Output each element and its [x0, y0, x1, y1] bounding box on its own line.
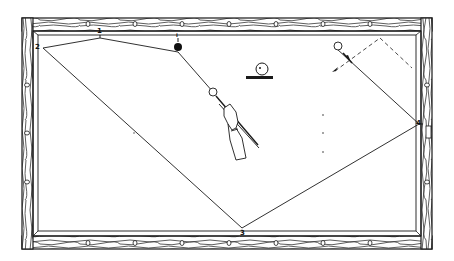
- rail-point-label-3: 3: [240, 230, 245, 237]
- rail-point-label-1: 1: [97, 28, 102, 35]
- table-drawing: [0, 0, 454, 261]
- object-ball-black: [174, 43, 182, 51]
- target-ball-upper-right: [334, 42, 342, 50]
- rail-point-label-2: 2: [35, 44, 40, 51]
- cue-ball: [209, 88, 217, 96]
- rail-point-label-4: 4: [416, 120, 421, 127]
- object-ball-label: I: [176, 33, 178, 38]
- billiards-diagram: 1 2 3 4 I: [0, 0, 454, 261]
